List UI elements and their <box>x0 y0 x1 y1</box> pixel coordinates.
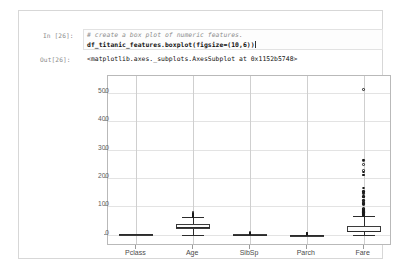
input-prompt-label: In [26]: <box>43 32 74 39</box>
grid-line <box>108 178 390 179</box>
y-tick-mark <box>104 92 107 93</box>
x-tick-label-age: Age <box>162 249 222 256</box>
x-tick-mark <box>192 245 193 249</box>
grid-line <box>108 150 390 151</box>
output-repr-text: <matplotlib.axes._subplots.AxesSubplot a… <box>87 55 297 63</box>
y-tick-mark <box>104 205 107 206</box>
median-line-fare <box>347 231 381 232</box>
grid-line <box>108 121 390 122</box>
outlier-point <box>362 190 365 193</box>
x-tick-mark <box>363 245 364 249</box>
x-tick-label-fare: Fare <box>333 249 393 256</box>
median-line-age <box>176 227 210 228</box>
screenshot-root: In [26]: # create a box plot of numeric … <box>0 0 411 269</box>
outlier-point <box>362 163 365 166</box>
whisker-cap-lower <box>353 235 375 236</box>
whisker-upper <box>364 216 365 226</box>
x-tick-mark <box>249 245 250 249</box>
code-statement-text: df_titanic_features.boxplot(figsize=(10,… <box>87 41 255 49</box>
median-line-pclass <box>119 234 153 235</box>
x-tick-label-pclass: Pclass <box>105 249 165 256</box>
outlier-point <box>362 169 365 172</box>
x-tick-label-sibsp: SibSp <box>219 249 279 256</box>
notebook-cell[interactable]: In [26]: # create a box plot of numeric … <box>18 10 383 259</box>
outlier-point <box>362 199 365 202</box>
code-statement-line: df_titanic_features.boxplot(figsize=(10,… <box>87 41 256 49</box>
grid-line <box>108 206 390 207</box>
code-comment-line: # create a box plot of numeric features. <box>87 31 243 39</box>
outlier-point <box>362 207 365 210</box>
text-cursor <box>255 41 256 48</box>
category-guide-line <box>307 76 308 245</box>
category-guide-line <box>136 76 137 245</box>
category-guide-line <box>250 76 251 245</box>
x-tick-mark <box>135 245 136 249</box>
plot-axes-area <box>107 75 391 245</box>
whisker-upper <box>193 217 194 224</box>
outlier-point <box>362 174 365 177</box>
x-tick-label-parch: Parch <box>276 249 336 256</box>
y-tick-mark <box>104 149 107 150</box>
x-tick-mark <box>306 245 307 249</box>
grid-line <box>108 93 390 94</box>
outlier-point <box>362 88 365 91</box>
whisker-cap-lower <box>182 235 204 236</box>
outlier-point <box>362 195 365 198</box>
y-tick-mark <box>104 120 107 121</box>
y-tick-mark <box>104 177 107 178</box>
y-tick-mark <box>104 234 107 235</box>
output-prompt-label: Out[26]: <box>40 56 71 63</box>
boxplot-figure: 0100200300400500 PclassAgeSibSpParchFare <box>81 71 399 256</box>
